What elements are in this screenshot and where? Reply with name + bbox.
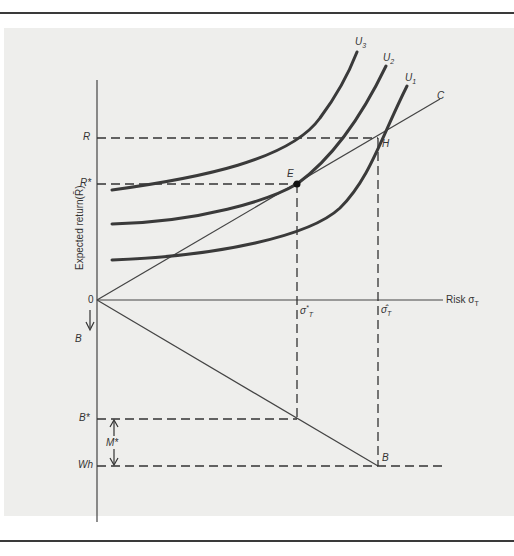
label-B-point: B — [382, 452, 389, 463]
tick-R: R — [83, 131, 90, 142]
tick-sigma-star: σ*T — [300, 304, 313, 318]
tick-Wh: Wh — [78, 459, 93, 470]
curve-U1 — [112, 86, 407, 260]
diagram-canvas — [0, 0, 514, 556]
point-E-marker — [294, 181, 301, 188]
label-M-star: M* — [106, 437, 118, 448]
label-C: C — [437, 90, 444, 101]
line-0-B — [97, 300, 378, 466]
label-H: H — [382, 138, 389, 149]
bottom-rule — [0, 540, 514, 542]
label-U2: U2 — [383, 52, 394, 65]
y-axis-label: Expected return(R̄) — [74, 186, 85, 270]
origin-label: 0 — [88, 294, 94, 305]
tick-sigma-hat: σ̂T — [381, 304, 391, 317]
line-0-C — [97, 99, 440, 300]
x-axis-label: Risk σT — [446, 294, 479, 307]
tick-B-star: B* — [79, 412, 90, 423]
label-E: E — [287, 168, 294, 179]
curve-U2 — [112, 66, 386, 224]
label-B-axis: B — [75, 333, 82, 344]
label-U1: U1 — [405, 72, 416, 85]
label-U3: U3 — [355, 36, 366, 49]
